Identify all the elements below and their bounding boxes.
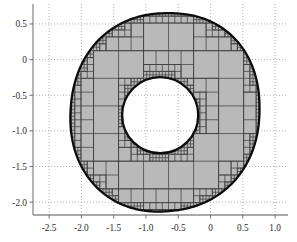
y-tick-label: -1.5 — [12, 162, 27, 172]
x-tick-label: -2.5 — [42, 223, 57, 233]
y-tick-label: -0.5 — [12, 91, 27, 101]
x-tick-label: 0.5 — [237, 223, 249, 233]
x-tick-label: 1.0 — [269, 223, 281, 233]
x-tick-label: -1.0 — [139, 223, 154, 233]
y-tick-label: -2.0 — [12, 198, 27, 208]
figure-canvas: -2.5-2.0-1.5-1.0-0.500.51.00.50-0.5-1.0-… — [0, 0, 297, 242]
y-tick-label: 0.5 — [15, 19, 27, 29]
plot-svg: -2.5-2.0-1.5-1.0-0.500.51.00.50-0.5-1.0-… — [0, 0, 297, 242]
x-tick-label: -1.5 — [106, 223, 121, 233]
x-tick-label: 0 — [208, 223, 213, 233]
y-tick-label: -1.0 — [12, 126, 27, 136]
x-tick-label: -2.0 — [74, 223, 89, 233]
x-tick-label: -0.5 — [171, 223, 186, 233]
y-tick-label: 0 — [22, 55, 27, 65]
